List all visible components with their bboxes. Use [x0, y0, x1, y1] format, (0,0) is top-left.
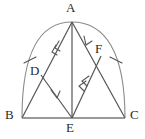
vertex-label-e: E — [66, 121, 74, 134]
geometry-canvas — [0, 0, 145, 139]
parallel-mark-de — [51, 90, 60, 98]
parallel-mark-ae — [84, 36, 92, 45]
geometry-figure: A B C D E F — [0, 0, 145, 139]
segment-ef — [72, 56, 101, 118]
vertex-label-d: D — [30, 64, 39, 77]
vertex-label-f: F — [95, 42, 102, 55]
congruence-tick-right — [110, 57, 122, 63]
vertex-label-a: A — [66, 1, 75, 14]
vertex-label-c: C — [130, 108, 139, 121]
vertex-label-b: B — [5, 108, 14, 121]
side-ac — [72, 22, 125, 118]
